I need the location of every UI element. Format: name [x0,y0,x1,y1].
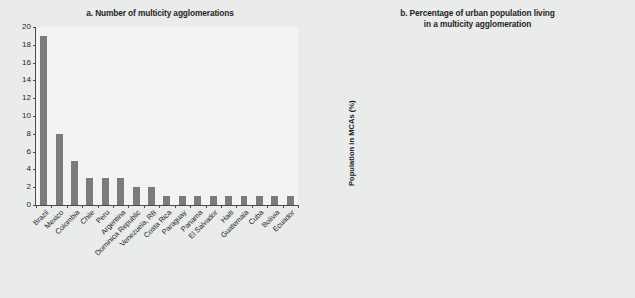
bar[interactable] [287,196,294,205]
y-tick-label: 16 [22,59,31,67]
bar[interactable] [86,178,93,205]
chart-panel-b: b. Percentage of urban population living… [320,0,635,298]
bar-cell [205,27,220,205]
y-tick-mark [33,169,36,170]
bar-cell [236,27,251,205]
bar-cell [51,27,66,205]
bar[interactable] [71,161,78,206]
chart-b-title-line2: in a multicity agglomeration [320,19,635,30]
bar[interactable] [194,196,201,205]
y-tick-label: 6 [27,148,31,156]
bar-cell [283,27,298,205]
bar[interactable] [225,196,232,205]
chart-a-x-labels: BrazilMexicoColombiaChilePeruArgentinaDo… [36,205,298,291]
y-tick-label: 2 [27,183,31,191]
bar-cell [144,27,159,205]
chart-b-title-line1: b. Percentage of urban population living [320,8,635,19]
bar[interactable] [102,178,109,205]
bar[interactable] [56,134,63,205]
figure-container: a. Number of multicity agglomerations 02… [0,0,635,298]
bar-cell [82,27,97,205]
chart-a-bars [36,27,298,205]
bar[interactable] [163,196,170,205]
bar-cell [36,27,51,205]
bar-cell [159,27,174,205]
bar[interactable] [256,196,263,205]
chart-a-title: a. Number of multicity agglomerations [0,8,320,19]
x-tick-mark [298,205,299,208]
y-tick-label: 0 [27,201,31,209]
chart-b-y-axis-title: Population in MCAs (%) [347,100,356,186]
y-tick-label: 14 [22,76,31,84]
bar-cell [252,27,267,205]
y-tick-label: 4 [27,165,31,173]
bar-cell [113,27,128,205]
bar[interactable] [40,36,47,205]
chart-a-plot-area: 02468101214161820 BrazilMexicoColombiaCh… [36,27,298,205]
y-tick-label: 10 [22,112,31,120]
bar[interactable] [133,187,140,205]
y-tick-mark [33,134,36,135]
y-tick-label: 18 [22,41,31,49]
y-tick-mark [33,27,36,28]
y-tick-label: 12 [22,94,31,102]
bar[interactable] [241,196,248,205]
bar-cell [267,27,282,205]
bar[interactable] [148,187,155,205]
y-tick-mark [33,152,36,153]
y-tick-mark [33,80,36,81]
bar-cell [98,27,113,205]
y-tick-mark [33,98,36,99]
y-tick-label: 20 [22,23,31,31]
bar[interactable] [210,196,217,205]
bar-cell [221,27,236,205]
bar-cell [175,27,190,205]
chart-b-title: b. Percentage of urban population living… [320,8,635,30]
y-tick-mark [33,116,36,117]
bar-cell [128,27,143,205]
y-tick-mark [33,187,36,188]
bar-cell [190,27,205,205]
bar-cell [67,27,82,205]
y-tick-mark [33,45,36,46]
y-tick-label: 8 [27,130,31,138]
y-tick-mark [33,63,36,64]
chart-panel-a: a. Number of multicity agglomerations 02… [0,0,320,298]
bar[interactable] [117,178,124,205]
bar[interactable] [271,196,278,205]
x-tick-label: Chile [78,208,96,226]
bar[interactable] [179,196,186,205]
